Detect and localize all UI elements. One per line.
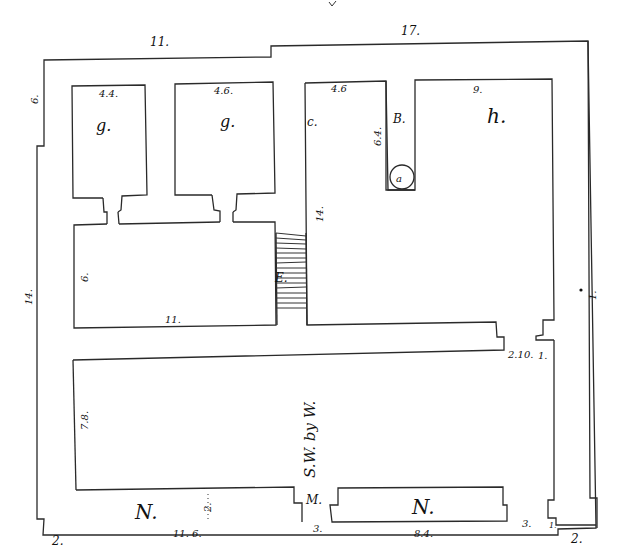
dim-top-left: 11. xyxy=(150,35,169,49)
dim-left-wall: 14. xyxy=(23,289,34,305)
dim-step-right-2: 1. xyxy=(538,350,548,361)
hall-outline xyxy=(74,222,276,328)
dim-top-right: 17. xyxy=(401,24,420,38)
floor-plan: g. g. c. B. a h. E. N. N. M. S.W. by W. … xyxy=(0,0,617,560)
stray-mark xyxy=(329,1,336,6)
room-label-g2: g. xyxy=(220,112,235,131)
room-label-b: B. xyxy=(392,112,406,126)
dim-bottom-right-bench: 8.4. xyxy=(414,528,433,539)
room-label-h: h. xyxy=(487,104,506,128)
door-g1-right-jamb xyxy=(118,212,119,224)
dim-court-height: 7.8. xyxy=(79,411,90,430)
dim-left-offset: 6. xyxy=(29,94,40,104)
dim-right-wall: 1. xyxy=(587,290,598,300)
dim-step-right-1: 2.10. xyxy=(507,349,533,360)
dim-bottom-left-corner: 2. xyxy=(51,534,63,548)
corridor-dot xyxy=(579,288,582,291)
room-g2-outline xyxy=(175,82,275,212)
orientation-label: S.W. by W. xyxy=(301,401,319,478)
court-bottom-left xyxy=(76,487,302,522)
dim-hall-width: 11. xyxy=(165,314,181,325)
room-c-h-outline xyxy=(305,79,554,340)
room-c-left-wall xyxy=(73,83,504,360)
dim-bottom-right-gap: 3. xyxy=(522,518,532,529)
door-g2-left-jamb xyxy=(212,195,220,222)
dim-room-c-height: 14. xyxy=(314,206,325,222)
dim-entrance-width: 3. xyxy=(313,523,323,534)
room-label-n-right: N. xyxy=(411,495,435,519)
dim-passage-b: 6.4. xyxy=(372,127,383,146)
well-circle xyxy=(390,165,414,189)
room-label-c: c. xyxy=(307,115,318,129)
room-label-a: a xyxy=(396,173,402,184)
dim-bottom-right-corner: 2. xyxy=(570,532,582,546)
dim-room-g2: 4.6. xyxy=(213,85,233,96)
door-g1-left-jamb xyxy=(103,198,107,224)
dim-hall-height: 6. xyxy=(79,272,90,282)
room-g1-outline xyxy=(72,85,147,212)
hall-top-wall xyxy=(119,222,220,224)
room-label-m: M. xyxy=(305,493,322,507)
dim-bench-left-depth: 2. xyxy=(202,502,213,513)
inner-wall-left xyxy=(73,360,76,490)
dim-room-c: 4.6 xyxy=(330,83,348,94)
dim-room-g1: 4.4. xyxy=(98,88,118,99)
room-label-g1: g. xyxy=(96,116,111,135)
dim-room-h: 9. xyxy=(473,84,483,95)
room-label-e: E. xyxy=(274,271,288,285)
dim-bottom-right-step: 1. xyxy=(549,521,557,530)
dim-bottom-left-length: 11. 6. xyxy=(173,528,202,539)
room-label-n-left: N. xyxy=(134,500,158,524)
